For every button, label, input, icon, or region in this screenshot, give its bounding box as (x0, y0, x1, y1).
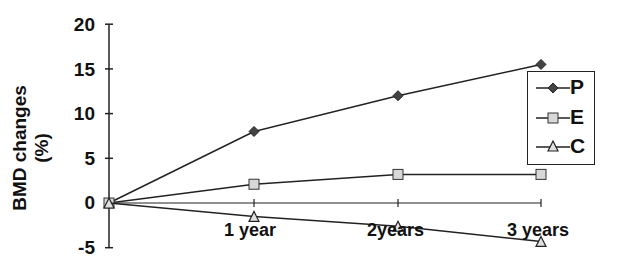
legend-label-e: E (570, 105, 584, 129)
legend-item-p: P (528, 74, 594, 102)
legend-label-c: C (570, 134, 585, 158)
x-tick-3-years: 3 years (507, 220, 569, 241)
square-marker-icon (534, 104, 574, 132)
triangle-marker-icon (534, 133, 574, 161)
x-tick-2-years: 2years (367, 220, 424, 241)
diamond-marker-icon (534, 74, 574, 102)
x-tick-1-year: 1 year (224, 220, 276, 241)
legend: P E C (527, 71, 595, 165)
legend-label-p: P (570, 75, 584, 99)
legend-item-e: E (528, 104, 594, 132)
legend-item-c: C (528, 133, 594, 161)
